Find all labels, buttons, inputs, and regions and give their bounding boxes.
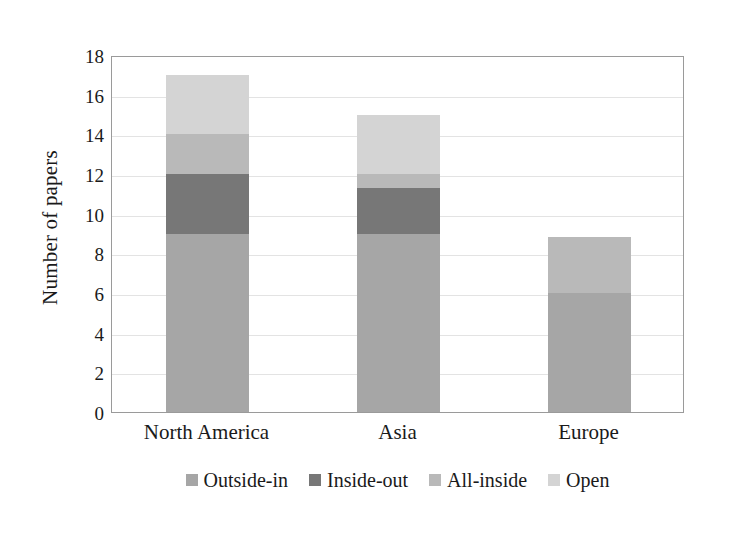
bar-group[interactable] <box>357 55 440 412</box>
bar-segment[interactable] <box>166 234 249 413</box>
legend-item-label: Open <box>566 470 609 490</box>
bar-segment[interactable] <box>548 237 631 293</box>
y-axis-tick-label: 6 <box>60 285 104 304</box>
bar-group[interactable] <box>548 55 631 412</box>
stacked-bar-chart: Number of papers 181614121086420 North A… <box>0 0 742 533</box>
y-axis-tick-label: 2 <box>60 364 104 383</box>
bars-layer <box>112 57 683 412</box>
y-axis-tick-labels: 181614121086420 <box>60 56 104 413</box>
bar-group[interactable] <box>166 55 249 412</box>
y-axis-tick-label: 8 <box>60 245 104 264</box>
legend-item-label: Outside-in <box>204 470 288 490</box>
bar-stack <box>357 55 440 412</box>
legend-item[interactable]: Outside-in <box>186 470 288 490</box>
legend-item-label: Inside-out <box>327 470 408 490</box>
bar-segment[interactable] <box>548 293 631 412</box>
bar-segment[interactable] <box>357 188 440 234</box>
y-axis-tick-label: 10 <box>60 205 104 224</box>
bar-stack <box>166 55 249 412</box>
legend-swatch-icon <box>429 474 441 486</box>
x-axis-tick-label: Asia <box>378 420 417 445</box>
y-axis-tick-label: 16 <box>60 86 104 105</box>
y-axis-tick-label: 14 <box>60 126 104 145</box>
legend-swatch-icon <box>309 474 321 486</box>
y-axis-tick-label: 0 <box>60 404 104 423</box>
bar-stack <box>548 55 631 412</box>
x-axis-tick-label: North America <box>144 420 269 445</box>
legend-item[interactable]: Open <box>548 470 609 490</box>
bar-segment[interactable] <box>166 134 249 174</box>
x-axis-tick-labels: North AmericaAsiaEurope <box>111 420 684 452</box>
x-axis-tick-label: Europe <box>558 420 619 445</box>
legend-item[interactable]: Inside-out <box>309 470 408 490</box>
legend-swatch-icon <box>548 474 560 486</box>
plot-area <box>111 56 684 413</box>
legend-item-label: All-inside <box>447 470 527 490</box>
bar-segment[interactable] <box>357 115 440 175</box>
legend-swatch-icon <box>186 474 198 486</box>
bar-segment[interactable] <box>166 75 249 135</box>
y-axis-tick-label: 18 <box>60 47 104 66</box>
bar-segment[interactable] <box>357 234 440 413</box>
chart-legend: Outside-inInside-outAll-insideOpen <box>111 470 684 490</box>
y-axis-title: Number of papers <box>38 103 63 353</box>
bar-segment[interactable] <box>166 174 249 234</box>
y-axis-tick-label: 12 <box>60 166 104 185</box>
y-axis-tick-label: 4 <box>60 324 104 343</box>
bar-segment[interactable] <box>357 174 440 188</box>
legend-item[interactable]: All-inside <box>429 470 527 490</box>
